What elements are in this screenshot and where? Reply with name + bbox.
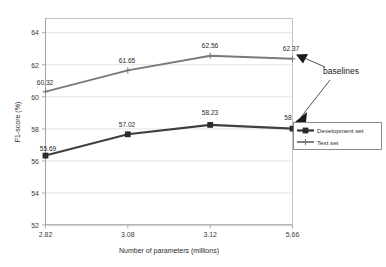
y-tick-label-56: 56 <box>31 158 39 165</box>
dev-point-label-3: 58 <box>284 114 292 121</box>
legend-label-development-set[interactable]: Development set <box>317 127 364 134</box>
y-axis-title: F1-score (%) <box>14 102 22 142</box>
series-test-set <box>43 53 296 95</box>
chart-container: 64 62 60 58 56 54 52 2.82 3.08 3.12 5.66… <box>0 0 386 267</box>
legend-label-test-set[interactable]: Test set <box>317 139 339 146</box>
plot-area-border <box>46 19 293 225</box>
test-point-label-0: 60.32 <box>37 79 54 86</box>
y-tick-label-58: 58 <box>31 126 39 133</box>
baselines-annotation: baselines <box>295 54 359 122</box>
f1-score-line-chart: 64 62 60 58 56 54 52 2.82 3.08 3.12 5.66… <box>0 0 386 267</box>
y-axis <box>42 19 46 226</box>
y-tick-label-62: 62 <box>31 62 39 69</box>
development-set-line <box>46 125 293 156</box>
baselines-label: baselines <box>323 66 359 76</box>
y-tick-label-64: 64 <box>31 29 39 36</box>
test-point-label-3: 62.37 <box>283 45 300 52</box>
test-set-line <box>46 56 293 92</box>
dev-point-label-2: 58.23 <box>202 109 219 116</box>
dev-point-label-0: 55.69 <box>40 145 57 152</box>
x-axis-title: Number of parameters (millions) <box>119 247 219 255</box>
test-point-label-1: 61.65 <box>119 57 136 64</box>
test-set-markers <box>43 53 296 95</box>
arrowhead-bottom-icon <box>295 112 307 122</box>
y-tick-label-60: 60 <box>31 94 39 101</box>
test-point-label-2: 62.56 <box>202 42 219 49</box>
y-tick-label-52: 52 <box>31 222 39 229</box>
series-development-set <box>43 122 296 159</box>
x-tick-label-0: 2.82 <box>39 231 53 238</box>
x-tick-label-2: 3.12 <box>203 231 217 238</box>
y-tick-label-54: 54 <box>31 190 39 197</box>
chart-legend[interactable]: Development set Test set <box>294 123 382 150</box>
x-axis <box>46 225 293 229</box>
dev-point-label-1: 57.02 <box>119 121 136 128</box>
x-tick-label-3: 5.66 <box>286 231 300 238</box>
x-tick-label-1: 3.08 <box>121 231 135 238</box>
